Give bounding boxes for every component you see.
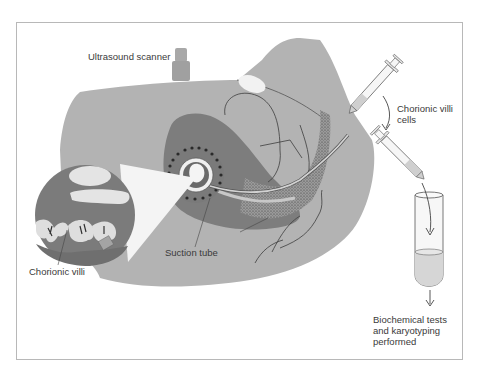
test-tube: [415, 183, 443, 306]
label-chorionic-villi-cells: Chorionic villi cells: [397, 103, 457, 125]
magnified-villi-view: [35, 165, 135, 266]
scanner-body: [172, 61, 190, 81]
label-ultrasound-scanner: Ultrasound scanner: [88, 51, 170, 62]
cvs-illustration: [0, 0, 479, 366]
syringe-upper: [343, 53, 404, 119]
transfer-arrow: [383, 96, 390, 128]
label-chorionic-villi: Chorionic villi: [29, 266, 85, 277]
label-suction-tube: Suction tube: [165, 247, 218, 258]
scanner-head: [175, 48, 187, 62]
syringe-lower: [369, 124, 430, 185]
label-biochemical-tests: Biochemical tests and karyotyping perfor…: [373, 314, 463, 347]
ultrasound-scanner: [172, 48, 190, 81]
